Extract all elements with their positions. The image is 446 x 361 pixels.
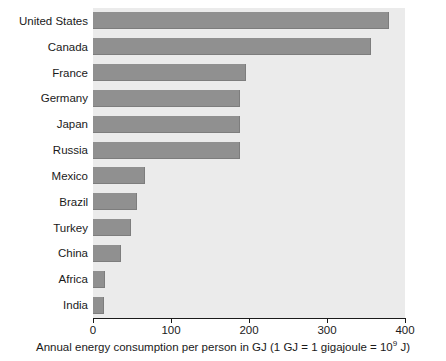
bar-india xyxy=(93,297,104,314)
bar-canada xyxy=(93,38,371,55)
bar-germany xyxy=(93,90,240,107)
bar-row xyxy=(93,12,405,29)
bar-china xyxy=(93,245,121,262)
bar-row xyxy=(93,271,405,288)
x-tick-label-100: 100 xyxy=(151,324,191,337)
bar-mexico xyxy=(93,167,145,184)
x-axis-title: Annual energy consumption per person in … xyxy=(0,340,446,354)
category-label-africa: Africa xyxy=(2,273,88,285)
bar-row xyxy=(93,219,405,236)
x-tick-label-200: 200 xyxy=(229,324,269,337)
x-tick-mark-300 xyxy=(327,318,328,323)
category-label-france: France xyxy=(2,67,88,79)
bar-row xyxy=(93,64,405,81)
bar-row xyxy=(93,38,405,55)
bar-row xyxy=(93,245,405,262)
category-label-canada: Canada xyxy=(2,41,88,53)
bar-brazil xyxy=(93,193,137,210)
bar-row xyxy=(93,116,405,133)
x-tick-mark-400 xyxy=(405,318,406,323)
x-tick-mark-100 xyxy=(171,318,172,323)
bar-row xyxy=(93,90,405,107)
bar-africa xyxy=(93,271,105,288)
x-tick-label-400: 400 xyxy=(385,324,425,337)
bar-chart: United StatesCanadaFranceGermanyJapanRus… xyxy=(0,0,446,361)
bar-row xyxy=(93,193,405,210)
bar-france xyxy=(93,64,246,81)
category-label-mexico: Mexico xyxy=(2,170,88,182)
category-label-japan: Japan xyxy=(2,118,88,130)
x-tick-mark-0 xyxy=(93,318,94,323)
category-label-turkey: Turkey xyxy=(2,222,88,234)
category-label-india: India xyxy=(2,299,88,311)
category-label-russia: Russia xyxy=(2,144,88,156)
bar-row xyxy=(93,142,405,159)
bar-united-states xyxy=(93,12,389,29)
bar-row xyxy=(93,297,405,314)
bar-turkey xyxy=(93,219,131,236)
bar-japan xyxy=(93,116,240,133)
x-axis-title-exponent: 9 xyxy=(393,339,397,348)
category-label-brazil: Brazil xyxy=(2,196,88,208)
x-tick-label-300: 300 xyxy=(307,324,347,337)
category-label-united-states: United States xyxy=(2,15,88,27)
bar-russia xyxy=(93,142,240,159)
category-label-china: China xyxy=(2,247,88,259)
x-tick-mark-200 xyxy=(249,318,250,323)
category-label-germany: Germany xyxy=(2,92,88,104)
bar-row xyxy=(93,167,405,184)
plot-area xyxy=(93,8,405,318)
category-axis-labels: United StatesCanadaFranceGermanyJapanRus… xyxy=(0,8,88,318)
x-tick-label-0: 0 xyxy=(73,324,113,337)
